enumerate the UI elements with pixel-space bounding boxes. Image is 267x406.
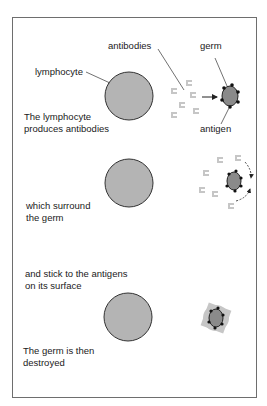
step-1-caption: The lymphocyte produces antibodies	[24, 111, 109, 135]
lymphocyte-pointer	[86, 72, 110, 83]
germ-pointer	[215, 58, 227, 86]
panel-3	[104, 293, 231, 341]
step-3-caption: and stick to the antigens on its surface	[25, 268, 127, 292]
lymphocyte-label: lymphocyte	[35, 66, 83, 78]
curved-arrow-icon	[236, 189, 250, 201]
germ-icon	[220, 83, 240, 109]
antibodies-label: antibodies	[108, 40, 151, 52]
germ-label: germ	[200, 40, 222, 52]
antigen-label: antigen	[200, 123, 231, 135]
coated-germ-icon	[201, 303, 232, 334]
lymphocyte-cell	[105, 159, 153, 207]
germ-icon	[225, 169, 242, 192]
antibodies-pointer	[158, 49, 184, 90]
antigen-pointer	[221, 108, 229, 124]
lymphocyte-cell	[104, 293, 152, 341]
panel-2	[105, 155, 251, 209]
curved-arrow-icon	[245, 162, 251, 178]
panel-1	[86, 49, 240, 124]
antibody-icon-group	[171, 80, 199, 118]
step-4-caption: The germ is then destroyed	[23, 345, 94, 369]
step-2-caption: which surround the germ	[26, 200, 90, 224]
lymphocyte-cell	[105, 72, 153, 120]
